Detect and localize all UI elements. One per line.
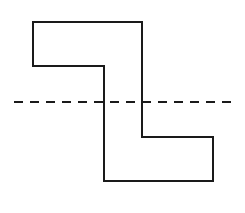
geometry-figure [0, 0, 245, 213]
